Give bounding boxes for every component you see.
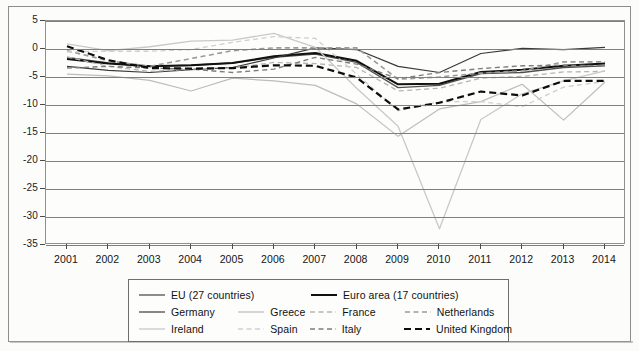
y-tick-mark	[40, 76, 45, 77]
x-tick-mark	[314, 244, 315, 249]
legend-swatch	[310, 307, 336, 317]
x-tick-label: 2014	[584, 253, 624, 265]
x-tick-label: 2012	[501, 253, 541, 265]
legend-swatch	[311, 290, 337, 300]
y-tick-label: -5	[6, 70, 38, 81]
y-tick-label: -35	[6, 238, 38, 249]
gridline	[46, 21, 624, 22]
x-tick-mark	[190, 244, 191, 249]
chart-figure: EU (27 countries)Euro area (17 countries…	[0, 0, 639, 351]
legend-swatch	[405, 307, 431, 317]
legend-row: EU (27 countries)Euro area (17 countries…	[129, 286, 508, 303]
legend-label: United Kingdom	[436, 323, 512, 335]
y-tick-label: 0	[6, 42, 38, 53]
x-tick-mark	[521, 244, 522, 249]
y-tick-label: -20	[6, 154, 38, 165]
gridline	[46, 189, 624, 190]
legend-item[interactable]: Netherlands	[395, 303, 508, 320]
legend-item[interactable]: Greece	[228, 303, 300, 320]
legend-swatch	[238, 307, 264, 317]
y-tick-label: -30	[6, 210, 38, 221]
gridline	[46, 245, 624, 246]
legend-swatch	[139, 324, 165, 334]
x-tick-mark	[604, 244, 605, 249]
y-tick-mark	[40, 216, 45, 217]
y-tick-mark	[40, 132, 45, 133]
x-tick-label: 2011	[460, 253, 500, 265]
x-tick-mark	[107, 244, 108, 249]
series-line	[67, 33, 605, 228]
legend-swatch	[139, 290, 165, 300]
legend-row: IrelandSpainItalyUnited Kingdom	[129, 320, 508, 337]
legend-item[interactable]: United Kingdom	[394, 320, 508, 337]
legend-label: EU (27 countries)	[171, 289, 254, 301]
legend-item[interactable]: France	[300, 303, 394, 320]
legend-row: GermanyGreeceFranceNetherlands	[129, 303, 508, 320]
x-tick-label: 2004	[170, 253, 210, 265]
y-tick-mark	[40, 244, 45, 245]
x-tick-label: 2002	[87, 253, 127, 265]
x-tick-mark	[149, 244, 150, 249]
legend-item[interactable]: Spain	[228, 320, 299, 337]
y-tick-label: -15	[6, 126, 38, 137]
gridline	[46, 161, 624, 162]
gridline	[46, 49, 624, 50]
x-tick-mark	[480, 244, 481, 249]
y-tick-mark	[40, 104, 45, 105]
x-tick-label: 2008	[336, 253, 376, 265]
y-tick-label: 5	[6, 14, 38, 25]
y-tick-mark	[40, 188, 45, 189]
x-tick-label: 2001	[46, 253, 86, 265]
gridline	[46, 105, 624, 106]
legend-label: France	[342, 306, 375, 318]
legend-swatch	[139, 307, 165, 317]
legend-item[interactable]: Euro area (17 countries)	[301, 286, 501, 303]
x-tick-label: 2005	[212, 253, 252, 265]
legend-item[interactable]: EU (27 countries)	[129, 286, 301, 303]
legend-label: Spain	[270, 323, 297, 335]
legend-swatch	[404, 324, 430, 334]
x-tick-mark	[438, 244, 439, 249]
legend-label: Euro area (17 countries)	[343, 289, 459, 301]
x-tick-label: 2007	[294, 253, 334, 265]
series-line	[67, 48, 605, 79]
legend-item[interactable]: Germany	[129, 303, 228, 320]
x-tick-mark	[563, 244, 564, 249]
x-tick-label: 2009	[377, 253, 417, 265]
legend-label: Italy	[342, 323, 362, 335]
y-tick-mark	[40, 160, 45, 161]
gridline	[46, 77, 624, 78]
x-tick-label: 2003	[129, 253, 169, 265]
y-tick-label: -25	[6, 182, 38, 193]
legend-item[interactable]: Ireland	[129, 320, 228, 337]
y-tick-mark	[40, 48, 45, 49]
legend-label: Ireland	[171, 323, 204, 335]
x-tick-mark	[397, 244, 398, 249]
y-tick-mark	[40, 20, 45, 21]
gridline	[46, 133, 624, 134]
legend-swatch	[238, 324, 264, 334]
x-tick-label: 2010	[418, 253, 458, 265]
legend-label: Germany	[171, 306, 215, 318]
y-tick-label: -10	[6, 98, 38, 109]
x-tick-mark	[66, 244, 67, 249]
x-tick-mark	[273, 244, 274, 249]
legend-label: Netherlands	[437, 306, 495, 318]
legend-swatch	[310, 324, 336, 334]
gridline	[46, 217, 624, 218]
plot-area	[45, 20, 625, 244]
chart-legend: EU (27 countries)Euro area (17 countries…	[128, 279, 509, 342]
x-tick-mark	[356, 244, 357, 249]
x-tick-mark	[232, 244, 233, 249]
legend-item[interactable]: Italy	[300, 320, 394, 337]
x-tick-label: 2013	[543, 253, 583, 265]
x-tick-label: 2006	[253, 253, 293, 265]
